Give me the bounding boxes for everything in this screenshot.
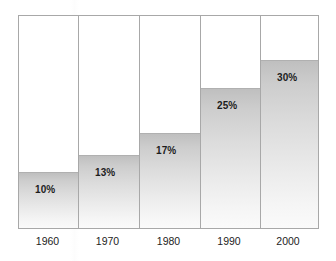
x-tick-1970: 1970: [77, 234, 138, 248]
bar-1990: 25%: [201, 88, 260, 228]
plot-frame: 10% 13% 17% 25% 30%: [18, 15, 319, 229]
chart-column-1960: 10%: [19, 16, 78, 228]
chart-column-1970: 13%: [78, 16, 139, 228]
chart-column-2000: 30%: [260, 16, 318, 228]
bar-2000: 30%: [261, 60, 318, 228]
bar-value-label-1980: 17%: [156, 145, 176, 156]
bar-value-label-2000: 30%: [277, 72, 297, 83]
bar-value-label-1970: 13%: [95, 167, 115, 178]
bar-chart: 10% 13% 17% 25% 30%: [0, 0, 336, 261]
bar-1970: 13%: [79, 155, 139, 228]
bar-1960: 10%: [19, 172, 78, 228]
x-axis-labels: 1960 1970 1980 1990 2000: [18, 234, 319, 250]
bar-value-label-1990: 25%: [217, 100, 237, 111]
plot-area: 10% 13% 17% 25% 30%: [19, 16, 318, 228]
x-tick-1980: 1980: [138, 234, 199, 248]
x-tick-1960: 1960: [18, 234, 77, 248]
chart-column-1990: 25%: [200, 16, 260, 228]
bar-1980: 17%: [140, 133, 200, 228]
chart-column-1980: 17%: [139, 16, 200, 228]
bar-value-label-1960: 10%: [35, 184, 55, 195]
x-tick-2000: 2000: [259, 234, 317, 248]
x-tick-1990: 1990: [199, 234, 259, 248]
